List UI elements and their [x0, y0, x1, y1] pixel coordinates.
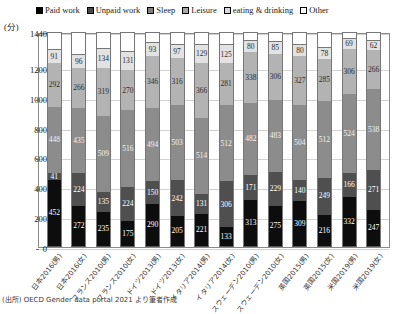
bar-segment[interactable]: 306 — [342, 49, 357, 95]
bar-segment[interactable]: 224 — [120, 187, 135, 220]
bar-segment[interactable]: 272 — [71, 206, 86, 247]
bar-segment[interactable]: 175 — [120, 221, 135, 247]
bar-segment[interactable]: 150 — [145, 181, 160, 203]
bar-segment-other[interactable] — [71, 32, 86, 54]
bar-segment[interactable]: 271 — [366, 170, 381, 210]
bar-segment[interactable]: 448 — [47, 107, 62, 174]
stacked-bar[interactable]: 175224516270131 — [120, 32, 135, 247]
bar-segment[interactable]: 483 — [268, 100, 283, 172]
bar-segment[interactable]: 290 — [145, 204, 160, 247]
bar-segment[interactable]: 332 — [342, 197, 357, 247]
stacked-bar[interactable]: 20524250331697 — [170, 32, 185, 247]
bar-segment[interactable]: 285 — [317, 59, 332, 102]
stacked-bar[interactable]: 4524144829291 — [47, 32, 62, 247]
bar-segment[interactable]: 538 — [366, 89, 381, 169]
bar-segment[interactable]: 131 — [120, 51, 135, 71]
bar-segment[interactable]: 338 — [243, 52, 258, 102]
stacked-bar[interactable]: 27522948330685 — [268, 32, 283, 247]
bar-segment-other[interactable] — [47, 32, 62, 49]
bar-segment[interactable]: 494 — [145, 108, 160, 182]
bar-segment-other[interactable] — [194, 32, 209, 44]
legend-item-leisure: Leisure — [182, 6, 217, 15]
bar-segment-other[interactable] — [96, 32, 111, 48]
bar-segment[interactable]: 249 — [317, 178, 332, 215]
bar-segment[interactable]: 482 — [243, 103, 258, 175]
legend-item-unpaid-work: Unpaid work — [87, 6, 141, 15]
bar-segment[interactable]: 80 — [243, 40, 258, 52]
bar-segment[interactable]: 131 — [194, 194, 209, 214]
bar-segment[interactable]: 80 — [292, 44, 307, 56]
bar-segment-other[interactable] — [145, 32, 160, 42]
bar-segment[interactable]: 129 — [194, 44, 209, 63]
bar-segment[interactable]: 135 — [96, 192, 111, 212]
legend-item-sleep: Sleep — [147, 6, 175, 15]
stacked-bar[interactable]: 27222443526696 — [71, 32, 86, 247]
bar-segment[interactable]: 346 — [145, 56, 160, 108]
bar-segment[interactable]: 275 — [268, 206, 283, 247]
bar-segment[interactable]: 514 — [194, 118, 209, 195]
bar-segment[interactable]: 512 — [317, 101, 332, 177]
bar-segment[interactable]: 93 — [145, 42, 160, 56]
stacked-bar[interactable]: 31317148233880 — [243, 32, 258, 247]
bar-segment[interactable]: 96 — [71, 54, 86, 68]
bar-segment[interactable]: 509 — [96, 116, 111, 192]
bar-segment[interactable]: 221 — [194, 214, 209, 247]
bar-segment[interactable]: 229 — [268, 172, 283, 206]
bar-segment[interactable]: 524 — [342, 94, 357, 172]
bar-segment[interactable]: 281 — [219, 63, 234, 105]
bar-segment[interactable]: 78 — [317, 47, 332, 59]
stacked-bar[interactable]: 33216652430669 — [342, 32, 357, 247]
stacked-bar[interactable]: 235135509319134 — [96, 32, 111, 247]
bar-segment-other[interactable] — [366, 32, 381, 40]
bar-segment[interactable]: 85 — [268, 41, 283, 54]
bar-segment[interactable]: 171 — [243, 175, 258, 201]
bar-segment[interactable]: 91 — [47, 49, 62, 63]
stacked-bar[interactable]: 21624951228578 — [317, 32, 332, 247]
bar-segment[interactable]: 366 — [194, 63, 209, 118]
bar-segment-other[interactable] — [170, 32, 185, 43]
bar-segment[interactable]: 292 — [47, 63, 62, 107]
stacked-bar[interactable]: 29015049434693 — [145, 32, 160, 247]
bar-segment[interactable]: 266 — [71, 68, 86, 108]
bar-segment-other[interactable] — [268, 32, 283, 41]
bar-segment[interactable]: 316 — [170, 58, 185, 105]
bar-segment-other[interactable] — [292, 32, 307, 44]
legend-label: Paid work — [45, 6, 80, 15]
bar-segment[interactable]: 247 — [366, 210, 381, 247]
bar-segment[interactable]: 306 — [219, 181, 234, 227]
bar-segment[interactable]: 452 — [47, 180, 62, 247]
bar-segment-other[interactable] — [243, 32, 258, 40]
stacked-bar[interactable]: 221131514366129 — [194, 32, 209, 247]
bar-segment[interactable]: 516 — [120, 110, 135, 187]
bar-segment[interactable]: 309 — [292, 201, 307, 247]
bar-segment[interactable]: 235 — [96, 212, 111, 247]
bar-segment[interactable]: 166 — [342, 173, 357, 198]
bar-segment[interactable]: 224 — [71, 173, 86, 206]
bar-segment[interactable]: 134 — [96, 48, 111, 68]
bar-segment[interactable]: 133 — [219, 227, 234, 247]
bar-segment[interactable]: 266 — [366, 50, 381, 90]
bar-segment[interactable]: 242 — [170, 180, 185, 216]
bar-segment[interactable]: 270 — [120, 70, 135, 110]
bar-segment[interactable]: 69 — [342, 38, 357, 48]
bar-segment[interactable]: 216 — [317, 215, 332, 247]
bar-segment[interactable]: 319 — [96, 68, 111, 116]
bar-segment[interactable]: 504 — [292, 105, 307, 180]
bar-segment[interactable]: 503 — [170, 105, 185, 180]
bar-segment[interactable]: 62 — [366, 40, 381, 49]
bar-segment-other[interactable] — [120, 32, 135, 51]
bar-segment[interactable]: 205 — [170, 216, 185, 247]
bar-segment[interactable]: 327 — [292, 56, 307, 105]
bar-segment[interactable]: 512 — [219, 105, 234, 181]
bar-segment[interactable]: 306 — [268, 54, 283, 100]
stacked-bar[interactable]: 24727153826662 — [366, 32, 381, 247]
bar-segment[interactable]: 125 — [219, 44, 234, 63]
bar-segment[interactable]: 313 — [243, 200, 258, 247]
bar-segment-other[interactable] — [317, 32, 332, 47]
bar-segment[interactable]: 435 — [71, 108, 86, 173]
bar-segment-other[interactable] — [219, 32, 234, 44]
stacked-bar[interactable]: 133306512281125 — [219, 32, 234, 247]
bar-segment[interactable]: 140 — [292, 180, 307, 201]
stacked-bar[interactable]: 30914050432780 — [292, 32, 307, 247]
bar-segment[interactable]: 97 — [170, 44, 185, 58]
